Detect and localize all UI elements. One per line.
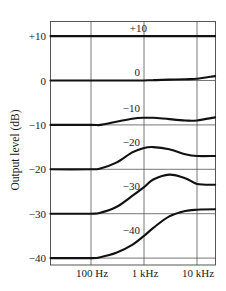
curve-label: −10	[123, 102, 141, 114]
curve-label: −20	[123, 136, 141, 148]
x-tick-label: 100 Hz	[76, 267, 108, 279]
curve-label: +10	[130, 22, 148, 34]
curve-minus20	[51, 147, 216, 169]
curve-0	[51, 76, 216, 80]
curve-label: 0	[135, 66, 141, 78]
y-tick-label: −20	[29, 163, 47, 175]
x-axis-ticks: 100 Hz1 kHz10 kHz	[76, 267, 214, 279]
curve-minus10	[51, 117, 216, 125]
y-axis-ticks: +100−10−20−30−40	[29, 30, 47, 264]
y-tick-label: −10	[29, 119, 47, 131]
x-tick-label: 10 kHz	[182, 267, 214, 279]
y-tick-label: −40	[29, 252, 47, 264]
curve-label: −40	[123, 224, 141, 236]
y-axis-title: Output level (dB)	[9, 109, 22, 190]
y-tick-label: +10	[29, 30, 47, 42]
curve-label: −30	[123, 180, 141, 192]
x-tick-label: 1 kHz	[132, 267, 159, 279]
eq-response-chart: +100−10−20−30−40 100 Hz1 kHz10 kHz +100−…	[0, 0, 226, 291]
y-tick-label: 0	[41, 75, 47, 87]
y-tick-label: −30	[29, 208, 47, 220]
